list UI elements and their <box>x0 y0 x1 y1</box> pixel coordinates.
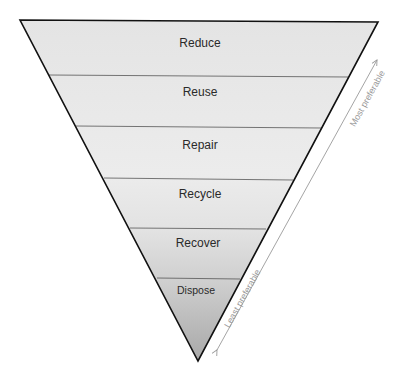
level-recover: Recover <box>176 236 221 250</box>
level-dispose: Dispose <box>177 284 215 296</box>
level-recycle: Recycle <box>179 187 222 201</box>
waste-hierarchy-diagram: Reduce Reuse Repair Recycle Recover Disp… <box>0 0 401 380</box>
level-reuse: Reuse <box>183 85 218 99</box>
level-reduce: Reduce <box>179 36 221 50</box>
level-repair: Repair <box>182 138 217 152</box>
